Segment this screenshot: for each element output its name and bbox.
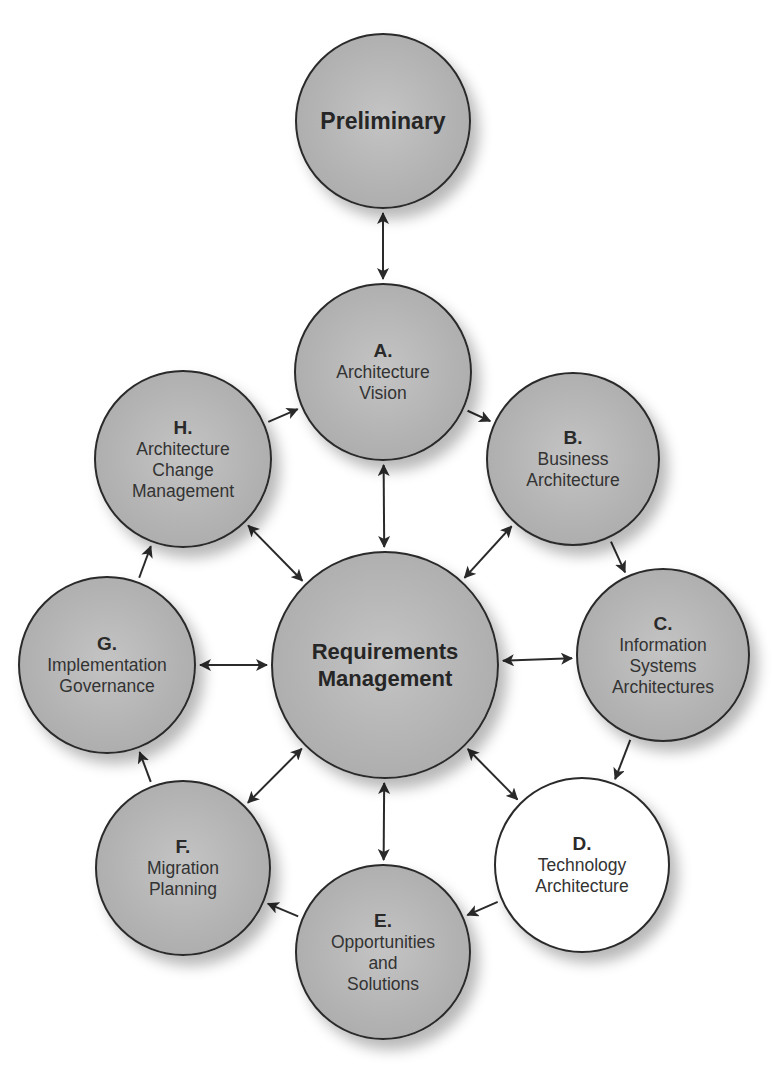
node-h-architecture-change-management: H. Architecture Change Management xyxy=(94,370,272,548)
node-a-architecture-vision: A. Architecture Vision xyxy=(294,283,472,461)
node-g-implementation-governance: G. Implementation Governance xyxy=(18,576,196,754)
bidirectional-arrow-center-f xyxy=(248,749,302,803)
node-e-opportunities-and-solutions: E. Opportunities and Solutions xyxy=(295,864,471,1040)
node-label: Technology Architecture xyxy=(535,855,628,897)
bidirectional-arrow-center-a xyxy=(384,465,385,547)
arrow-b-c xyxy=(611,542,625,573)
node-letter: H. xyxy=(174,417,193,439)
adm-cycle-diagram: Preliminary A. Architecture Vision B. Bu… xyxy=(0,0,774,1074)
node-c-information-systems-architectures: C. Information Systems Architectures xyxy=(576,568,750,742)
node-label: Preliminary xyxy=(320,107,445,135)
node-b-business-architecture: B. Business Architecture xyxy=(486,372,660,546)
bidirectional-arrow-center-d xyxy=(468,749,518,799)
arrow-e-f xyxy=(268,904,298,917)
node-letter: F. xyxy=(176,836,191,858)
node-label: Business Architecture xyxy=(526,449,619,491)
node-letter: D. xyxy=(573,833,592,855)
node-letter: A. xyxy=(374,340,393,362)
node-requirements-management: Requirements Management xyxy=(271,551,499,779)
node-letter: B. xyxy=(564,427,583,449)
arrow-g-h xyxy=(139,546,151,577)
node-label: Information Systems Architectures xyxy=(612,635,714,698)
node-label: Implementation Governance xyxy=(47,655,167,697)
node-label: Requirements Management xyxy=(312,638,459,692)
bidirectional-arrow-center-b xyxy=(465,526,512,578)
bidirectional-arrow-center-e xyxy=(384,783,385,860)
node-letter: E. xyxy=(374,910,392,932)
bidirectional-arrow-center-c xyxy=(503,658,572,660)
node-letter: C. xyxy=(654,613,673,635)
bidirectional-arrow-center-h xyxy=(248,525,302,580)
node-label: Opportunities and Solutions xyxy=(331,932,435,995)
node-label: Migration Planning xyxy=(147,858,219,900)
arrow-d-e xyxy=(467,902,497,915)
node-letter: G. xyxy=(97,633,117,655)
arrow-a-b xyxy=(468,411,491,421)
arrow-h-a xyxy=(268,409,297,422)
node-preliminary: Preliminary xyxy=(295,33,471,209)
arrow-f-g xyxy=(140,752,151,782)
node-label: Architecture Vision xyxy=(336,362,429,404)
node-label: Architecture Change Management xyxy=(132,439,234,502)
arrow-c-d xyxy=(615,740,630,779)
node-f-migration-planning: F. Migration Planning xyxy=(95,780,271,956)
node-d-technology-architecture: D. Technology Architecture xyxy=(494,777,670,953)
